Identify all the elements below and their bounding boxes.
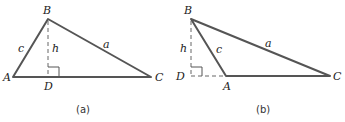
vertex-label-b-b: B — [183, 4, 192, 17]
side-label-a-a: a — [103, 38, 110, 51]
vertex-label-b-a: B — [42, 4, 51, 17]
caption-b: (b) — [256, 104, 270, 115]
triangle-diagrams: B A C D c h a (a) B h c a D A C (b) — [0, 0, 345, 122]
vertex-label-a-a: A — [2, 71, 11, 84]
triangle-abc-a — [13, 19, 151, 77]
side-label-h-a: h — [52, 42, 59, 55]
triangle-abc-b — [191, 19, 330, 76]
vertex-label-a-b: A — [222, 80, 231, 93]
vertex-label-c-b: C — [333, 70, 342, 83]
vertex-label-c-a: C — [155, 71, 164, 84]
figure-b: B h c a D A C (b) — [175, 4, 342, 115]
side-label-c-a: c — [18, 42, 24, 55]
side-label-a-b: a — [265, 37, 272, 50]
vertex-label-d-a: D — [43, 80, 53, 93]
right-angle-marker-b — [191, 67, 202, 76]
side-label-c-b: c — [216, 43, 222, 56]
vertex-label-d-b: D — [175, 70, 185, 83]
figure-a: B A C D c h a (a) — [2, 4, 164, 115]
right-angle-marker-a — [48, 67, 59, 77]
side-label-h-b: h — [180, 42, 187, 55]
caption-a: (a) — [76, 104, 90, 115]
